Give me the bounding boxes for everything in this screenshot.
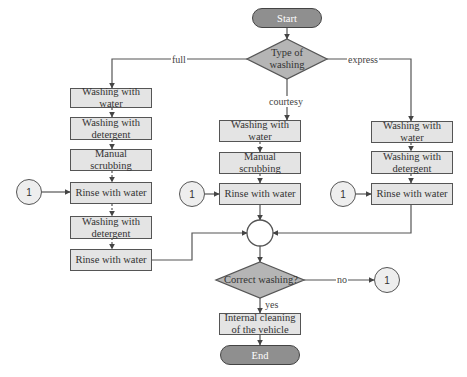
end-terminal: End — [220, 345, 300, 365]
edge-label-yes: yes — [264, 299, 279, 310]
courtesy-step-washing-water: Washing with water — [219, 120, 301, 142]
connector-1-courtesy: 1 — [179, 181, 205, 207]
connector-1-no: 1 — [374, 267, 400, 293]
start-terminal: Start — [252, 8, 322, 28]
courtesy-step-manual-scrubbing: Manual scrubbing — [219, 152, 301, 174]
full-step-washing-detergent-2: Washing with detergent — [70, 216, 152, 239]
full-step-manual-scrubbing: Manual scrubbing — [70, 149, 152, 171]
connector-1-express: 1 — [330, 181, 356, 207]
merge-junction — [247, 220, 273, 246]
full-step-rinse-water-1: Rinse with water — [70, 182, 152, 204]
full-step-rinse-water-2: Rinse with water — [70, 249, 152, 271]
edge-label-no: no — [336, 274, 348, 285]
type-of-washing-label: Type of washing — [262, 45, 312, 73]
courtesy-step-rinse-water: Rinse with water — [219, 183, 301, 205]
edge-label-full: full — [171, 54, 187, 65]
express-step-washing-water: Washing with water — [371, 121, 453, 143]
express-step-rinse-water: Rinse with water — [371, 183, 453, 205]
connector-1-full: 1 — [16, 179, 42, 205]
full-step-washing-water: Washing with water — [70, 88, 152, 108]
edge-label-courtesy: courtesy — [268, 96, 304, 107]
express-step-washing-detergent: Washing with detergent — [371, 151, 453, 174]
full-step-washing-detergent: Washing with detergent — [70, 117, 152, 140]
internal-cleaning-step: Internal cleaning of the vehicle — [219, 313, 301, 335]
correct-washing-label: Correct washing? — [218, 273, 304, 287]
edge-label-express: express — [347, 54, 379, 65]
